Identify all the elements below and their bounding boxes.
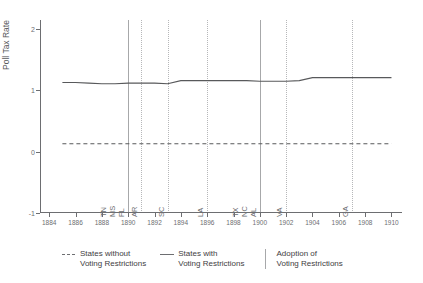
x-tick-label: 1892 [147, 219, 161, 227]
legend-label: Adoption ofVoting Restrictions [277, 249, 343, 269]
legend-swatch-solid-line-icon [160, 249, 174, 259]
legend-swatch-vertical-line-icon [259, 249, 273, 269]
x-tick-label: 1902 [279, 219, 293, 227]
legend-entry-0: States withoutVoting Restrictions [62, 249, 146, 269]
chart-legend: States withoutVoting RestrictionsStates … [62, 249, 392, 269]
legend-label-line2: Voting Restrictions [277, 259, 343, 269]
x-tick-label: 1886 [68, 219, 82, 227]
x-tick-label: 1900 [253, 219, 267, 227]
legend-label: States withoutVoting Restrictions [80, 249, 146, 269]
y-tick-label: 2 [31, 26, 35, 33]
x-tick-mark [260, 213, 261, 217]
legend-label-line2: Voting Restrictions [80, 259, 146, 269]
plot-area: 210-1 1884188618881890189218941896189819… [40, 20, 402, 213]
x-tick-label: 1890 [121, 219, 135, 227]
legend-swatch-dashed-line-icon [62, 249, 76, 259]
x-tick-mark [312, 213, 313, 217]
x-tick-label: 1896 [200, 219, 214, 227]
y-tick-label: -1 [29, 210, 35, 217]
y-tick-mark [36, 213, 40, 214]
x-tick-label: 1906 [332, 219, 346, 227]
series-line-states-with-restrictions [62, 78, 391, 84]
legend-label: States withVoting Restrictions [178, 249, 244, 269]
x-tick-label: 1888 [95, 219, 109, 227]
x-tick-label: 1894 [174, 219, 188, 227]
x-tick-mark [155, 213, 156, 217]
series-layer [40, 20, 402, 213]
x-tick-label: 1910 [384, 219, 398, 227]
y-axis-title: Poll Tax Rate [2, 20, 11, 70]
y-tick-label: 0 [31, 148, 35, 155]
x-tick-mark [49, 213, 50, 217]
x-tick-mark [365, 213, 366, 217]
chart-figure: Poll Tax Rate 210-1 18841886188818901892… [0, 0, 423, 283]
x-tick-mark [181, 213, 182, 217]
legend-label-line1: States with [178, 249, 244, 259]
y-tick-label: 1 [31, 87, 35, 94]
legend-swatch-mark [265, 249, 266, 269]
x-tick-mark [339, 213, 340, 217]
legend-label-line1: States without [80, 249, 146, 259]
x-tick-mark [76, 213, 77, 217]
x-tick-label: 1904 [305, 219, 319, 227]
legend-label-line1: Adoption of [277, 249, 343, 259]
x-tick-mark [391, 213, 392, 217]
x-tick-label: 1908 [358, 219, 372, 227]
legend-entry-2: Adoption ofVoting Restrictions [259, 249, 343, 269]
legend-label-line2: Voting Restrictions [178, 259, 244, 269]
x-tick-label: 1898 [226, 219, 240, 227]
legend-swatch-mark [62, 254, 76, 255]
x-tick-mark [286, 213, 287, 217]
legend-entry-1: States withVoting Restrictions [160, 249, 244, 269]
x-tick-mark [207, 213, 208, 217]
legend-swatch-mark [160, 254, 174, 255]
x-tick-label: 1884 [42, 219, 56, 227]
